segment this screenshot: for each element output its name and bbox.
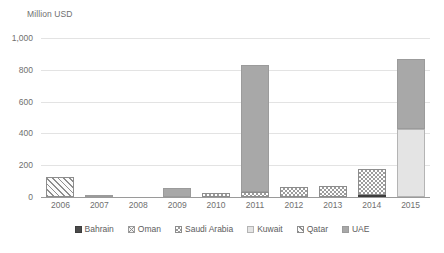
y-axis-tick-label: 800 bbox=[19, 65, 33, 75]
bar-segment[interactable] bbox=[163, 188, 191, 197]
bar-column[interactable] bbox=[313, 38, 352, 197]
cross-hatch-swatch bbox=[128, 226, 135, 233]
legend-label: Saudi Arabia bbox=[185, 224, 233, 234]
legend-item-uae[interactable]: UAE bbox=[342, 224, 369, 234]
solid-dark-swatch bbox=[75, 226, 82, 233]
legend-item-saudi-arabia[interactable]: Saudi Arabia bbox=[175, 224, 233, 234]
bar-segment[interactable] bbox=[46, 177, 74, 197]
bar-column[interactable] bbox=[352, 38, 391, 197]
x-axis-tick-label: 2008 bbox=[119, 200, 158, 210]
y-axis-tick-label: 200 bbox=[19, 160, 33, 170]
x-axis-tick-label: 2013 bbox=[313, 200, 352, 210]
bar-segment[interactable] bbox=[241, 65, 269, 192]
x-axis-tick-label: 2014 bbox=[352, 200, 391, 210]
legend-label: Kuwait bbox=[257, 224, 283, 234]
bar-segment[interactable] bbox=[397, 59, 425, 129]
legend-item-kuwait[interactable]: Kuwait bbox=[247, 224, 283, 234]
x-axis-tick-label: 2011 bbox=[236, 200, 275, 210]
bar-stack bbox=[280, 187, 308, 197]
legend-label: UAE bbox=[352, 224, 369, 234]
bar-stack bbox=[358, 169, 386, 197]
legend-item-oman[interactable]: Oman bbox=[128, 224, 161, 234]
x-axis-tick-label: 2009 bbox=[158, 200, 197, 210]
y-axis-tick-label: 0 bbox=[28, 192, 33, 202]
x-axis-tick-label: 2007 bbox=[80, 200, 119, 210]
bar-column[interactable] bbox=[119, 38, 158, 197]
x-axis-tick-label: 2015 bbox=[391, 200, 430, 210]
bar-stack bbox=[397, 59, 425, 197]
bar-stack bbox=[163, 188, 191, 197]
y-axis-tick-labels: 02004006008001,000 bbox=[0, 38, 37, 197]
legend-label: Oman bbox=[138, 224, 161, 234]
bar-column[interactable] bbox=[41, 38, 80, 197]
y-axis-tick-label: 400 bbox=[19, 128, 33, 138]
bar-column[interactable] bbox=[391, 38, 430, 197]
bar-segment[interactable] bbox=[280, 187, 308, 197]
bar-segment[interactable] bbox=[358, 169, 386, 194]
x-axis-tick-label: 2010 bbox=[197, 200, 236, 210]
plot-area bbox=[41, 38, 430, 197]
bar-segment[interactable] bbox=[319, 186, 347, 197]
y-axis-title: Million USD bbox=[27, 9, 73, 19]
bar-column[interactable] bbox=[197, 38, 236, 197]
legend-label: Qatar bbox=[307, 224, 328, 234]
bar-column[interactable] bbox=[80, 38, 119, 197]
y-axis-tick-label: 600 bbox=[19, 97, 33, 107]
legend-item-bahrain[interactable]: Bahrain bbox=[75, 224, 114, 234]
bar-column[interactable] bbox=[236, 38, 275, 197]
x-axis-tick-label: 2012 bbox=[274, 200, 313, 210]
diagonal-hatch-swatch bbox=[297, 226, 304, 233]
bar-column[interactable] bbox=[158, 38, 197, 197]
checkerboard-swatch bbox=[175, 226, 182, 233]
x-axis-tick-label: 2006 bbox=[41, 200, 80, 210]
gray-solid-swatch bbox=[342, 226, 349, 233]
bar-series-container bbox=[41, 38, 430, 197]
x-axis-tick-labels: 2006200720082009201020112012201320142015 bbox=[41, 200, 430, 210]
bar-stack bbox=[241, 65, 269, 197]
legend-label: Bahrain bbox=[85, 224, 114, 234]
bar-stack bbox=[46, 177, 74, 197]
light-solid-swatch bbox=[247, 226, 254, 233]
bar-stack bbox=[319, 186, 347, 197]
bar-segment[interactable] bbox=[397, 129, 425, 197]
stacked-bar-chart: Million USD 02004006008001,000 200620072… bbox=[0, 0, 444, 253]
bar-column[interactable] bbox=[274, 38, 313, 197]
y-axis-tick-label: 1,000 bbox=[12, 33, 33, 43]
chart-legend: BahrainOmanSaudi ArabiaKuwaitQatarUAE bbox=[0, 224, 444, 234]
legend-item-qatar[interactable]: Qatar bbox=[297, 224, 328, 234]
x-axis-line bbox=[41, 197, 430, 198]
